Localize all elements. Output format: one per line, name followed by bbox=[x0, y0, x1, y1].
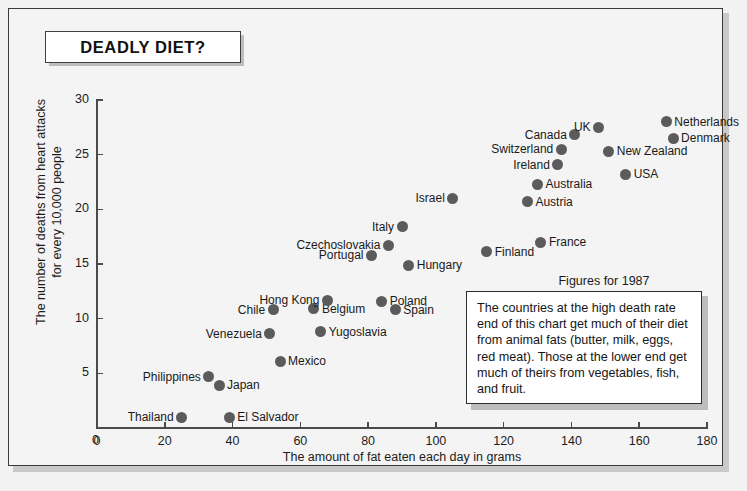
page-title: DEADLY DIET? bbox=[80, 38, 205, 57]
data-point bbox=[522, 196, 533, 207]
data-point bbox=[481, 246, 492, 257]
x-tick-label: 60 bbox=[280, 434, 320, 448]
x-tick-label: 20 bbox=[145, 434, 185, 448]
x-axis-title: The amount of fat eaten each day in gram… bbox=[96, 450, 708, 464]
data-point bbox=[275, 356, 286, 367]
annotation-text: The countries at the high death rate end… bbox=[477, 300, 691, 397]
data-point-label: Israel bbox=[415, 191, 444, 205]
data-point-label: Denmark bbox=[681, 131, 730, 145]
data-point bbox=[224, 412, 235, 423]
data-point bbox=[552, 159, 563, 170]
x-axis-line bbox=[96, 427, 708, 429]
y-tick-label: 10 bbox=[63, 311, 89, 325]
figures-note: Figures for 1987 bbox=[558, 274, 649, 288]
data-point-label: Thailand bbox=[128, 410, 174, 424]
data-point bbox=[214, 380, 225, 391]
data-point-label: USA bbox=[634, 167, 659, 181]
y-tick-label: 15 bbox=[63, 256, 89, 270]
data-point bbox=[620, 169, 631, 180]
data-point-label: Japan bbox=[227, 378, 260, 392]
data-point-label: Italy bbox=[372, 220, 394, 234]
y-tick-label: 30 bbox=[63, 92, 89, 106]
data-point-label: Hungary bbox=[417, 258, 462, 272]
x-tick-mark bbox=[706, 422, 708, 428]
data-point-label: Czechoslovakia bbox=[296, 238, 380, 252]
x-tick-mark bbox=[435, 422, 437, 428]
data-point bbox=[264, 328, 275, 339]
data-point-label: Ireland bbox=[513, 158, 550, 172]
y-tick-mark bbox=[97, 154, 103, 156]
y-tick-mark bbox=[97, 99, 103, 101]
data-point-label: Finland bbox=[495, 245, 534, 259]
x-tick-mark bbox=[367, 422, 369, 428]
x-tick-label: 160 bbox=[619, 434, 659, 448]
data-point-label: Netherlands bbox=[674, 115, 739, 129]
data-point bbox=[390, 304, 401, 315]
x-tick-mark bbox=[503, 422, 505, 428]
y-tick-label: 20 bbox=[63, 201, 89, 215]
plot-area: 051015202530 020406080100120140160180 Th… bbox=[0, 0, 747, 491]
x-tick-label: 140 bbox=[551, 434, 591, 448]
x-tick-label: 80 bbox=[348, 434, 388, 448]
chart-page: DEADLY DIET? 051015202530 02040608010012… bbox=[0, 0, 747, 491]
data-point bbox=[661, 116, 672, 127]
chart-title-box: DEADLY DIET? bbox=[45, 31, 241, 63]
data-point-label: El Salvador bbox=[237, 410, 298, 424]
y-axis-title: The number of deaths from heart attacks … bbox=[33, 97, 65, 327]
y-tick-mark bbox=[97, 373, 103, 375]
y-tick-label: 5 bbox=[63, 365, 89, 379]
x-tick-mark bbox=[300, 422, 302, 428]
data-point-label: UK bbox=[574, 120, 591, 134]
x-tick-mark bbox=[571, 422, 573, 428]
data-point-label: Switzerland bbox=[491, 142, 553, 156]
data-point-label: Mexico bbox=[288, 354, 326, 368]
x-tick-mark bbox=[232, 422, 234, 428]
data-point-label: Canada bbox=[525, 128, 567, 142]
data-point-label: New Zealand bbox=[617, 144, 688, 158]
y-tick-mark bbox=[97, 318, 103, 320]
data-point bbox=[315, 326, 326, 337]
data-point-label: Australia bbox=[546, 177, 593, 191]
data-point bbox=[403, 260, 414, 271]
data-point bbox=[668, 133, 679, 144]
x-tick-label: 120 bbox=[484, 434, 524, 448]
data-point bbox=[322, 295, 333, 306]
data-point-label: Austria bbox=[535, 195, 572, 209]
x-tick-label: 40 bbox=[213, 434, 253, 448]
data-point-label: Spain bbox=[403, 303, 434, 317]
x-tick-label: 0 bbox=[77, 434, 117, 448]
data-point bbox=[603, 146, 614, 157]
data-point bbox=[447, 193, 458, 204]
data-point-label: Yugoslavia bbox=[329, 325, 387, 339]
y-tick-mark bbox=[97, 263, 103, 265]
data-point bbox=[383, 240, 394, 251]
data-point-label: France bbox=[549, 235, 586, 249]
y-tick-label: 25 bbox=[63, 147, 89, 161]
data-point bbox=[535, 237, 546, 248]
data-point-label: Hong Kong bbox=[259, 293, 319, 307]
data-point bbox=[376, 296, 387, 307]
data-point-label: Venezuela bbox=[206, 327, 262, 341]
x-tick-label: 100 bbox=[416, 434, 456, 448]
y-tick-mark bbox=[97, 209, 103, 211]
data-point bbox=[556, 144, 567, 155]
x-tick-mark bbox=[638, 422, 640, 428]
data-point bbox=[593, 122, 604, 133]
data-point bbox=[176, 412, 187, 423]
data-point bbox=[532, 179, 543, 190]
data-point bbox=[203, 371, 214, 382]
annotation-box: The countries at the high death rate end… bbox=[466, 291, 702, 404]
data-point bbox=[397, 221, 408, 232]
data-point-label: Philippines bbox=[143, 370, 201, 384]
x-tick-label: 180 bbox=[687, 434, 727, 448]
